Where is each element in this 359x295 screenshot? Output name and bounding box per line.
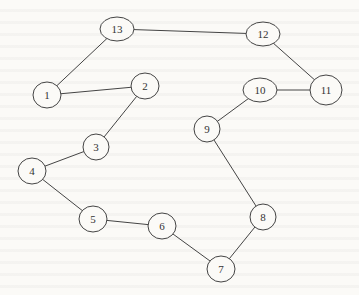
node-label: 2: [142, 80, 148, 92]
node-label: 9: [204, 123, 210, 135]
node-10: 10: [243, 78, 277, 102]
node-label: 3: [93, 141, 99, 153]
node-label: 5: [90, 213, 96, 225]
node-11: 11: [310, 75, 342, 105]
edge-1-2: [47, 86, 145, 95]
node-2: 2: [131, 73, 159, 99]
node-1: 1: [33, 82, 61, 108]
node-8: 8: [250, 204, 276, 230]
node-9: 9: [194, 116, 220, 142]
edges-layer: [32, 29, 326, 269]
node-label: 8: [260, 211, 266, 223]
edge-13-12: [117, 29, 263, 34]
nodes-layer: 12345678910111213: [18, 17, 342, 282]
node-3: 3: [83, 134, 109, 160]
node-5: 5: [79, 206, 107, 232]
node-label: 10: [255, 84, 267, 96]
node-label: 12: [258, 28, 269, 40]
node-4: 4: [18, 158, 46, 184]
node-12: 12: [246, 22, 280, 46]
node-label: 7: [218, 263, 224, 275]
node-7: 7: [207, 256, 235, 282]
node-label: 11: [321, 84, 332, 96]
graph-diagram: 12345678910111213: [0, 0, 359, 295]
node-label: 1: [44, 89, 50, 101]
node-label: 4: [29, 165, 35, 177]
edge-8-9: [207, 129, 263, 217]
node-13: 13: [100, 17, 134, 41]
node-label: 6: [159, 220, 165, 232]
node-6: 6: [148, 213, 176, 239]
node-label: 13: [112, 23, 124, 35]
